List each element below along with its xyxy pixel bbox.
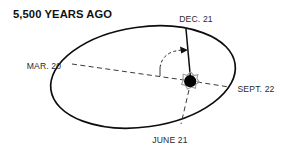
orbit-diagram-figure: 5,500 YEARS AGO DEC. 21 MAR. 20 SEPT. 22…: [0, 0, 289, 156]
equinox-axis-line-mar: [72, 64, 184, 80]
solstice-axis-group: [181, 90, 189, 124]
equinox-axis-line-sept: [197, 82, 229, 87]
diagram-canvas: 5,500 YEARS AGO DEC. 21 MAR. 20 SEPT. 22…: [0, 0, 289, 156]
obliquity-angle-group: [160, 46, 188, 68]
orbit-ellipse-group: [44, 15, 242, 140]
solstice-axis-line-june: [181, 90, 189, 124]
obliquity-angle-arc: [160, 50, 183, 68]
angle-arrow-head-icon: [180, 46, 188, 53]
label-sept-22: SEPT. 22: [237, 84, 274, 94]
page-title: 5,500 YEARS AGO: [13, 8, 112, 20]
equinox-axis-group: [72, 64, 229, 87]
label-dec-21: DEC. 21: [179, 14, 213, 24]
label-mar-20: MAR. 20: [27, 61, 62, 71]
label-june-21: JUNE 21: [152, 135, 188, 145]
sun-icon: [184, 75, 196, 87]
orbit-ellipse: [44, 15, 242, 140]
